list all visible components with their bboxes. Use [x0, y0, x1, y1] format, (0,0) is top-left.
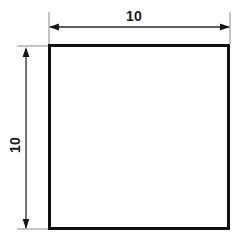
width-dimension-line-group	[49, 24, 230, 31]
drawing-svg: 10 10	[0, 0, 241, 248]
height-dimension-label: 10	[7, 137, 23, 153]
width-arrowhead-right-icon	[220, 24, 230, 31]
square-profile-outline	[50, 46, 229, 229]
technical-drawing-canvas: 10 10	[0, 0, 241, 248]
height-dimension-line-group	[23, 47, 30, 229]
width-arrowhead-left-icon	[49, 24, 59, 31]
height-arrowhead-bottom-icon	[23, 219, 30, 229]
height-arrowhead-top-icon	[23, 47, 30, 57]
width-dimension-label: 10	[126, 8, 142, 24]
